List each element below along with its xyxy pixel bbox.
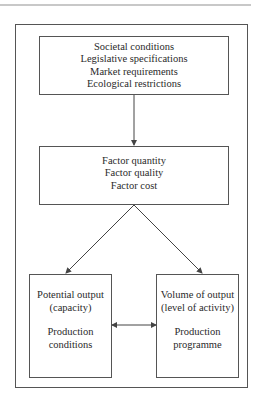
top-rule xyxy=(0,4,251,6)
box-title: Potential output xyxy=(37,289,104,302)
box-subtitle: programme xyxy=(173,339,221,352)
box-subtitle: Production xyxy=(47,326,93,339)
box-text: Factor cost xyxy=(111,180,157,193)
box-title: Volume of output xyxy=(161,289,234,302)
external-conditions-box: Societal conditions Legislative specific… xyxy=(39,36,229,95)
box-subtitle: Production xyxy=(174,326,220,339)
box-text: Factor quantity xyxy=(102,155,166,168)
box-text: Societal conditions xyxy=(94,41,174,54)
potential-output-box: Potential output (capacity) Production c… xyxy=(29,274,112,378)
box-text: Market requirements xyxy=(90,66,178,79)
box-title: (level of activity) xyxy=(161,302,234,315)
box-text: Factor quality xyxy=(105,167,164,180)
box-subtitle: conditions xyxy=(49,339,93,352)
factor-box: Factor quantity Factor quality Factor co… xyxy=(39,146,229,205)
volume-of-output-box: Volume of output (level of activity) Pro… xyxy=(156,274,239,378)
box-text: Ecological restrictions xyxy=(87,78,181,91)
box-text: Legislative specifications xyxy=(80,53,187,66)
box-title: (capacity) xyxy=(50,302,92,315)
